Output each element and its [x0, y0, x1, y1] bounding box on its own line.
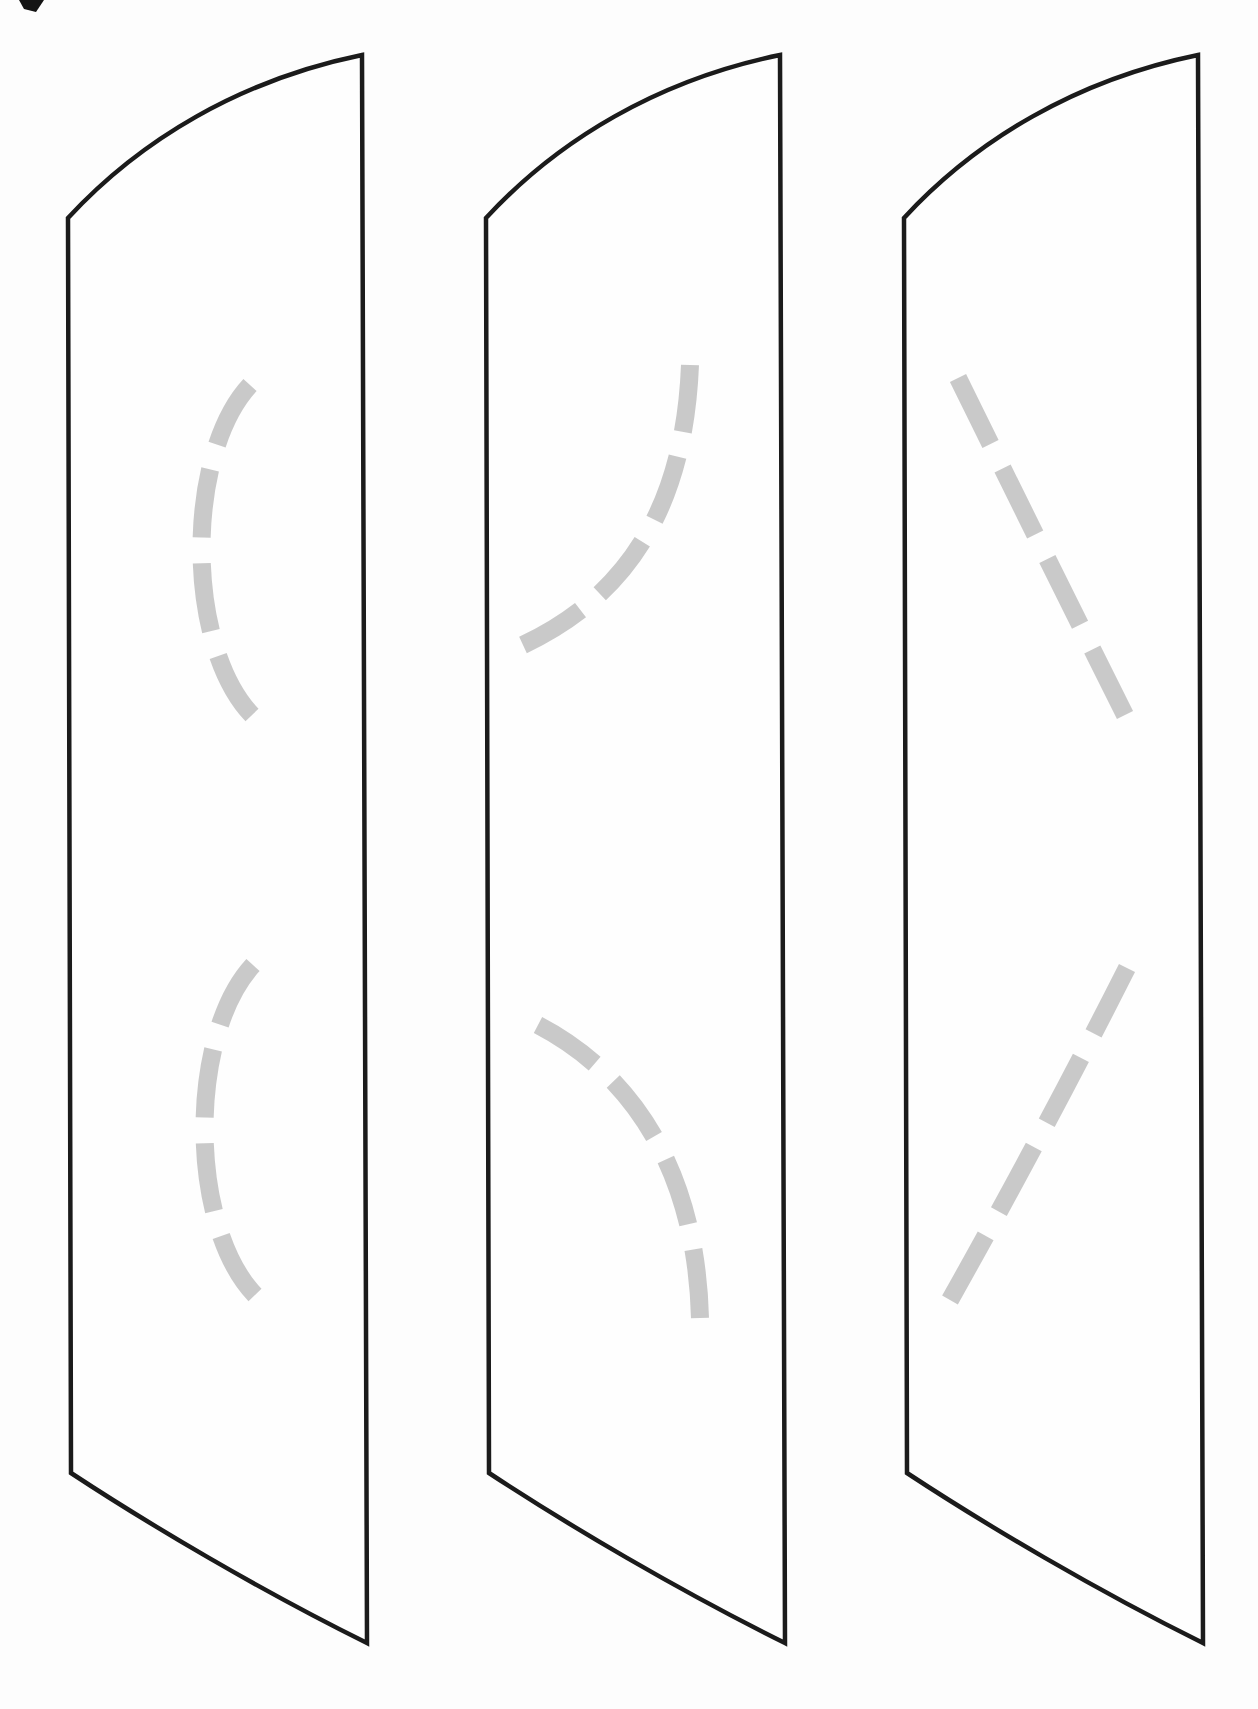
slat-3-outline — [904, 55, 1203, 1643]
template-drawing — [0, 0, 1258, 1709]
slat-1-outline — [68, 55, 367, 1643]
slat-panel-1 — [68, 55, 367, 1643]
slat-panel-3 — [904, 55, 1203, 1643]
scanned-template-page — [0, 0, 1258, 1709]
page-corner-mark — [19, 0, 44, 12]
slat-panel-2 — [486, 55, 785, 1643]
slat-2-outline — [486, 55, 785, 1643]
